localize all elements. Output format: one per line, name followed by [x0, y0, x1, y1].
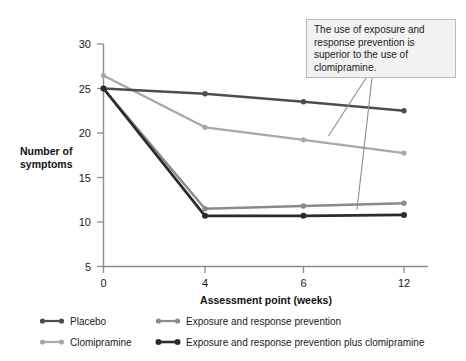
- x-tick-label-4: 4: [202, 277, 208, 289]
- y-axis-title-line2: symptoms: [20, 158, 73, 170]
- chart-legend: Placebo Exposure and response prevention…: [40, 316, 425, 348]
- series-exposure-and-response-prevention: [101, 86, 407, 212]
- legend-label-erp: Exposure and response prevention: [186, 316, 341, 327]
- data-point: [301, 137, 306, 142]
- data-point: [401, 151, 406, 156]
- y-axis-title-line1: Number of: [20, 145, 73, 157]
- data-point: [202, 213, 208, 219]
- y-tick-label-30: 30: [79, 38, 91, 50]
- data-point: [301, 99, 306, 104]
- x-tick-label-12: 12: [398, 277, 410, 289]
- legend-marker-erp: [156, 318, 161, 323]
- legend-marker-erp-plus-end: [175, 339, 181, 345]
- y-tick-label-5: 5: [85, 261, 91, 273]
- callout-annotation-box: The use of exposure and response prevent…: [306, 19, 456, 78]
- data-point: [301, 213, 307, 219]
- x-tick-label-6: 6: [300, 277, 306, 289]
- series-erp-plus-clomipramine: [101, 86, 408, 219]
- y-tick-label-25: 25: [79, 83, 91, 95]
- data-point: [101, 86, 107, 92]
- data-point: [202, 91, 207, 96]
- y-tick-label-20: 20: [79, 127, 91, 139]
- x-axis-ticks: [104, 267, 405, 274]
- legend-label-erp-plus-clomipramine: Exposure and response prevention plus cl…: [186, 337, 425, 348]
- data-point: [401, 201, 406, 206]
- chart-figure: 30 25 20 15 10 5 0 4 6 12 Assessment poi…: [0, 0, 466, 361]
- series-placebo: [101, 86, 407, 114]
- legend-marker-placebo-end: [59, 318, 64, 323]
- data-point: [401, 212, 407, 218]
- legend-marker-clomipramine-end: [59, 339, 64, 344]
- legend-marker-erp-plus: [156, 339, 162, 345]
- data-point: [401, 108, 406, 113]
- y-tick-label-10: 10: [79, 216, 91, 228]
- x-tick-label-0: 0: [100, 277, 106, 289]
- x-axis-title: Assessment point (weeks): [200, 294, 332, 306]
- legend-marker-clomipramine: [40, 339, 45, 344]
- legend-marker-erp-end: [175, 318, 180, 323]
- data-point: [202, 206, 207, 211]
- legend-label-placebo: Placebo: [70, 316, 107, 327]
- data-point: [101, 73, 106, 78]
- legend-label-clomipramine: Clomipramine: [70, 337, 132, 348]
- legend-marker-placebo: [40, 318, 45, 323]
- data-point: [301, 203, 306, 208]
- callout-annotation-text: The use of exposure and response prevent…: [314, 24, 449, 74]
- data-point: [202, 125, 207, 130]
- y-tick-label-15: 15: [79, 172, 91, 184]
